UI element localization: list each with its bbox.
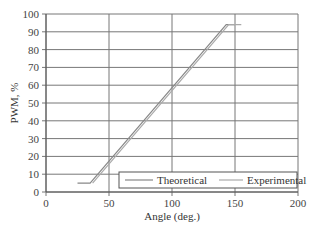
y-axis-label: PWM, % [8,83,20,124]
y-tick-label: 30 [28,133,40,145]
y-tick-label: 60 [28,79,40,91]
x-tick-label: 0 [43,197,49,209]
legend-label-experimental: Experimental [247,174,306,186]
x-tick-label: 200 [290,197,307,209]
y-tick-label: 20 [28,150,40,162]
y-tick-label: 40 [28,115,40,127]
legend-label-theoretical: Theoretical [157,174,207,186]
x-tick-label: 150 [227,197,244,209]
series-line-theoretical [78,25,236,183]
y-tick-label: 0 [34,186,40,198]
y-tick-label: 100 [23,8,40,20]
chart: 0102030405060708090100050100150200Angle … [0,0,318,236]
y-tick-label: 10 [28,168,40,180]
y-tick-label: 70 [28,61,40,73]
x-axis-label: Angle (deg.) [144,210,200,223]
series-line-experimental [93,25,242,183]
x-tick-label: 100 [164,197,181,209]
y-tick-label: 50 [28,97,40,109]
x-tick-label: 50 [104,197,116,209]
y-tick-label: 90 [28,26,40,38]
y-tick-label: 80 [28,44,40,56]
